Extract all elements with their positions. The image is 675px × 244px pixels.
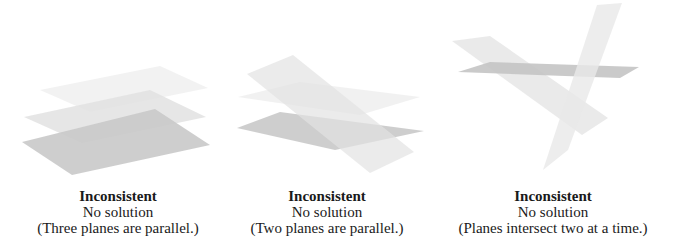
caption-result: No solution (0, 204, 238, 220)
panel-2-planes (237, 55, 424, 173)
caption-panel-3: Inconsistent No solution (Planes interse… (433, 188, 673, 236)
panel-1-planes (22, 66, 210, 175)
plane-horizontal (458, 62, 639, 78)
panel-3-planes (452, 3, 639, 170)
caption-note: (Two planes are parallel.) (207, 220, 447, 236)
caption-note: (Three planes are parallel.) (0, 220, 238, 236)
plane-tilted (247, 55, 414, 173)
caption-panel-2: Inconsistent No solution (Two planes are… (207, 188, 447, 236)
caption-title: Inconsistent (433, 188, 673, 204)
caption-title: Inconsistent (0, 188, 238, 204)
caption-result: No solution (207, 204, 447, 220)
caption-title: Inconsistent (207, 188, 447, 204)
caption-panel-1: Inconsistent No solution (Three planes a… (0, 188, 238, 236)
caption-result: No solution (433, 204, 673, 220)
caption-note: (Planes intersect two at a time.) (433, 220, 673, 236)
